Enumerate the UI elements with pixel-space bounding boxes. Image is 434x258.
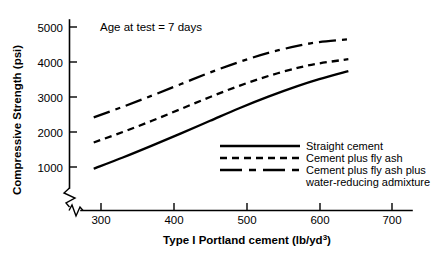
y-axis-title: Compressive Strength (psi) bbox=[11, 45, 23, 195]
chart-figure: Compressive Strength (psi) 5000 4000 300… bbox=[0, 0, 434, 258]
x-tick-label: 700 bbox=[382, 214, 401, 226]
y-axis-break-icon bbox=[64, 188, 75, 207]
chart-svg: Compressive Strength (psi) 5000 4000 300… bbox=[0, 0, 434, 258]
y-tick-label: 5000 bbox=[37, 22, 63, 34]
chart-legend: Straight cement Cement plus fly ash Ceme… bbox=[220, 140, 430, 188]
series-line-cement-fly-ash-admixture bbox=[94, 39, 349, 117]
legend-label: Straight cement bbox=[306, 140, 383, 152]
x-tick-label: 300 bbox=[91, 214, 110, 226]
y-tick-label: 2000 bbox=[37, 127, 63, 139]
x-tick-label: 600 bbox=[310, 214, 329, 226]
chart-annotation: Age at test = 7 days bbox=[100, 21, 202, 33]
series-line-cement-plus-fly-ash bbox=[94, 59, 349, 142]
x-axis-title: Type I Portland cement (lb/yd3) bbox=[163, 233, 331, 246]
x-axis-title-tail: ) bbox=[327, 234, 331, 246]
y-tick-group bbox=[70, 27, 78, 167]
y-tick-label: 3000 bbox=[37, 92, 63, 104]
x-tick-label: 400 bbox=[164, 214, 183, 226]
legend-label: Cement plus fly ash bbox=[306, 152, 403, 164]
x-tick-label: 500 bbox=[237, 214, 256, 226]
x-tick-group bbox=[101, 203, 392, 211]
legend-label: Cement plus fly ash plus bbox=[306, 164, 426, 176]
y-tick-label: 1000 bbox=[37, 162, 63, 174]
x-axis-title-main: Type I Portland cement (lb/yd bbox=[163, 234, 323, 246]
legend-label: water-reducing admixture bbox=[305, 176, 430, 188]
y-tick-label: 4000 bbox=[37, 57, 63, 69]
